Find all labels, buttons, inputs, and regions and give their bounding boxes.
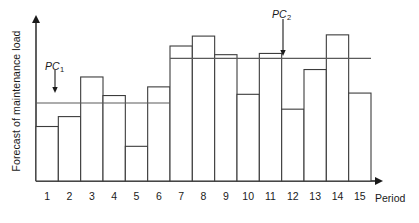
bar-period-8: [192, 36, 214, 181]
x-tick-label-15: 15: [354, 190, 366, 202]
bar-period-5: [125, 146, 147, 181]
bar-period-9: [215, 55, 237, 181]
bar-group: [36, 35, 371, 181]
x-tick-label-11: 11: [265, 190, 276, 202]
x-tick-label-12: 12: [287, 190, 299, 202]
x-tick-label-13: 13: [309, 190, 321, 202]
bar-period-11: [259, 53, 281, 181]
bar-period-7: [170, 46, 192, 181]
x-tick-label-8: 8: [201, 190, 207, 202]
bar-period-14: [326, 35, 348, 181]
bar-period-1: [36, 127, 58, 181]
bar-period-2: [58, 117, 80, 181]
x-tick-label-7: 7: [178, 190, 184, 202]
bar-period-12: [282, 109, 304, 181]
bar-period-6: [148, 87, 170, 181]
x-tick-label-9: 9: [223, 190, 229, 202]
x-tick-label-4: 4: [111, 190, 117, 202]
x-tick-label-5: 5: [134, 190, 140, 202]
x-tick-label-14: 14: [332, 190, 344, 202]
x-tick-label-6: 6: [156, 190, 162, 202]
x-tick-label-2: 2: [67, 190, 73, 202]
x-tick-label-1: 1: [44, 190, 50, 202]
bar-period-4: [103, 96, 125, 181]
bar-period-3: [81, 77, 103, 181]
x-tick-label-3: 3: [89, 190, 95, 202]
bar-period-10: [237, 94, 259, 181]
bar-period-13: [304, 70, 326, 181]
bar-period-15: [349, 93, 371, 181]
chart-figure: Forecast of maintenance load Period PC1 …: [0, 0, 419, 223]
x-tick-label-10: 10: [242, 190, 254, 202]
